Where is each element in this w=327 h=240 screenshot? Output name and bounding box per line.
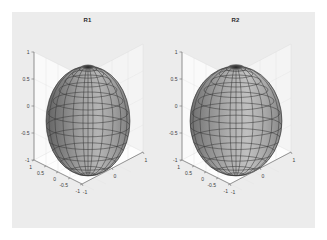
x-tick-left-1: 0 (114, 173, 117, 179)
z-tick-left-2: 0 (27, 103, 30, 109)
y-tick-right-1: 0.5 (185, 170, 192, 176)
axes-panel-right[interactable]: R2 (160, 12, 311, 228)
z-tick-left-1: 0.5 (23, 76, 30, 82)
y-tick-left-0: 1 (29, 164, 32, 170)
axes-panel-left[interactable]: R1 (12, 12, 163, 228)
x-tick-right-1: 0 (262, 173, 265, 179)
z-tick-left-4: -1 (25, 157, 30, 163)
y-tick-left-4: -1 (76, 188, 81, 194)
plot-title-left: R1 (12, 17, 163, 23)
y-tick-left-2: 0 (53, 176, 56, 182)
plot-svg-right: 1 0.5 0 -0.5 -1 1 0.5 0 -0.5 (160, 24, 311, 224)
plot-svg-left: 1 0.5 0 -0.5 -1 1 0.5 0 (12, 24, 163, 224)
plot-surface-right[interactable]: 1 0.5 0 -0.5 -1 1 0.5 0 -0.5 (160, 24, 311, 224)
x-tick-right-0: -1 (231, 189, 236, 195)
matlab-figure-window: R1 (12, 12, 315, 228)
z-tick-right-3: -0.5 (169, 130, 178, 136)
screenshot-root: R1 (0, 0, 327, 240)
y-tick-right-2: 0 (201, 176, 204, 182)
z-tick-right-1: 0.5 (171, 76, 178, 82)
plot-title-right: R2 (160, 17, 311, 23)
z-tick-right-0: 1 (175, 49, 178, 55)
z-tick-right-4: -1 (173, 157, 178, 163)
y-tick-right-3: -0.5 (207, 182, 216, 188)
y-tick-left-1: 0.5 (37, 170, 44, 176)
plot-surface-left[interactable]: 1 0.5 0 -0.5 -1 1 0.5 0 (12, 24, 163, 224)
z-tick-left-3: -0.5 (21, 130, 30, 136)
x-tick-left-2: 1 (145, 157, 148, 163)
x-tick-right-2: 1 (293, 157, 296, 163)
z-tick-right-2: 0 (175, 103, 178, 109)
y-tick-left-3: -0.5 (59, 182, 68, 188)
z-tick-left-0: 1 (27, 49, 30, 55)
y-tick-right-0: 1 (177, 164, 180, 170)
x-tick-left-0: -1 (83, 189, 88, 195)
y-tick-right-4: -1 (224, 188, 229, 194)
ellipsoid-surface-left (46, 64, 130, 177)
